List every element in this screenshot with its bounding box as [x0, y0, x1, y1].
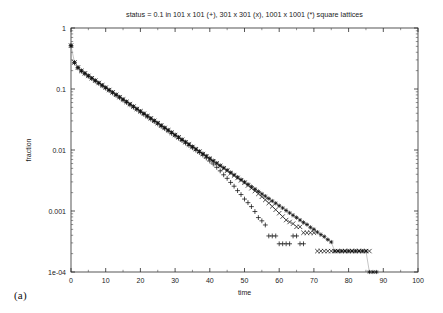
series-3-markers	[69, 44, 379, 275]
x-axis-label: time	[238, 289, 251, 296]
panel-label: (a)	[14, 289, 27, 301]
y-axis-label: fraction	[25, 138, 32, 161]
x-tick-label: 30	[171, 277, 179, 284]
x-tick-label: 80	[345, 277, 353, 284]
x-tick-label: 70	[310, 277, 318, 284]
x-tick-label: 10	[102, 277, 110, 284]
y-tick-label: 0.001	[48, 208, 66, 215]
x-tick-label: 60	[275, 277, 283, 284]
x-tick-label: 40	[206, 277, 214, 284]
y-tick-label: 0.01	[52, 147, 66, 154]
trend-line	[71, 46, 376, 272]
x-tick-label: 0	[69, 277, 73, 284]
decay-plot: status = 0.1 in 101 x 101 (+), 301 x 301…	[0, 0, 443, 313]
y-tick-label: 1e-04	[48, 269, 66, 276]
y-tick-label: 1	[62, 25, 66, 32]
x-tick-label: 50	[241, 277, 249, 284]
chart-title: status = 0.1 in 101 x 101 (+), 301 x 301…	[126, 10, 363, 19]
series-2-markers	[69, 43, 372, 253]
series-1-markers	[69, 43, 306, 246]
figure-panel: status = 0.1 in 101 x 101 (+), 301 x 301…	[0, 0, 443, 313]
x-tick-label: 100	[412, 277, 424, 284]
y-tick-label: 0.1	[56, 86, 66, 93]
x-tick-label: 20	[137, 277, 145, 284]
x-tick-label: 90	[379, 277, 387, 284]
plot-frame	[71, 28, 418, 272]
